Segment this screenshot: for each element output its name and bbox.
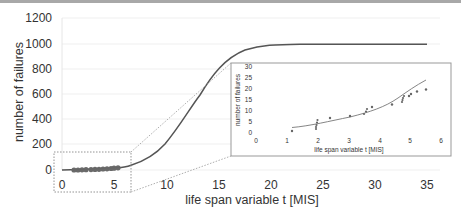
inset-y-tick-0: 0: [248, 129, 252, 136]
inset-y-tick-15: 15: [245, 96, 253, 103]
x-tick-10: 10: [160, 178, 174, 192]
y-tick-0: 0: [45, 163, 52, 177]
inset-frame: [231, 63, 451, 156]
inset-y-tick-5: 5: [248, 118, 252, 125]
y-tick-200: 200: [32, 137, 52, 151]
y-tick-1200: 1200: [25, 11, 52, 25]
inset-chart: number of failures 30 25 20 15 10 5 0 0 …: [231, 63, 451, 156]
inset-y-tick-30: 30: [245, 63, 253, 70]
inset-x-tick-2: 2: [316, 137, 320, 144]
x-tick-20: 20: [264, 178, 278, 192]
main-y-axis-title: number of failures: [12, 42, 26, 142]
inset-y-axis-title: number of failures: [234, 73, 241, 126]
inset-x-axis-title: life span variable t [MIS]: [314, 146, 384, 154]
chart-canvas: 1200 1000 800 600 400 200 0 number of fa…: [0, 0, 461, 215]
x-tick-5: 5: [111, 178, 118, 192]
x-tick-30: 30: [368, 178, 382, 192]
inset-x-tick-3: 3: [347, 137, 351, 144]
inset-x-tick-6: 6: [439, 137, 443, 144]
inset-y-tick-10: 10: [245, 107, 253, 114]
y-tick-1000: 1000: [25, 37, 52, 51]
x-tick-35: 35: [420, 178, 434, 192]
inset-x-tick-5: 5: [408, 137, 412, 144]
inset-y-tick-20: 20: [245, 85, 253, 92]
y-tick-400: 400: [32, 112, 52, 126]
main-x-ticks: 0 5 10 15 20 25 30 35: [59, 178, 434, 192]
y-tick-800: 800: [32, 62, 52, 76]
inset-y-tick-25: 25: [245, 74, 253, 81]
inset-x-tick-4: 4: [378, 137, 382, 144]
main-y-ticks: 1200 1000 800 600 400 200 0: [25, 11, 52, 177]
x-tick-15: 15: [212, 178, 226, 192]
zoom-region-box: [54, 152, 131, 192]
inset-x-tick-1: 1: [285, 137, 289, 144]
y-tick-600: 600: [32, 87, 52, 101]
main-x-axis-title: life span variable t [MIS]: [185, 193, 318, 207]
inset-x-tick-0: 0: [254, 137, 258, 144]
zoom-connector-top: [131, 63, 231, 152]
x-tick-0: 0: [59, 178, 66, 192]
x-tick-25: 25: [316, 178, 330, 192]
